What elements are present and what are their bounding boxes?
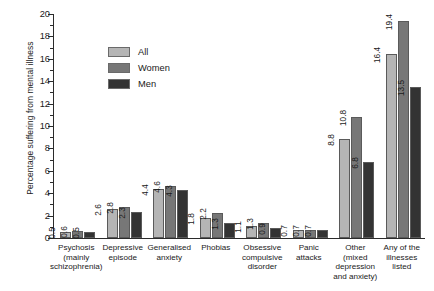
bar-value-label: 1.3 — [220, 217, 229, 228]
legend-swatch-women — [108, 63, 130, 73]
bar-value-text: 1.3 — [211, 219, 220, 230]
bar-group: 4.44.64.3 — [153, 14, 189, 238]
bar-group: 0.50.60.5 — [60, 14, 96, 238]
y-axis-minor-tick-mark — [50, 182, 53, 183]
y-axis-tick-label: 2 — [45, 211, 50, 221]
bar-value-text: 1.1 — [234, 221, 243, 232]
bar[interactable]: 0.5 — [84, 232, 95, 238]
y-axis-minor-tick-mark — [50, 137, 53, 138]
bar-value-label: 0.9 — [267, 221, 276, 232]
y-axis-minor-tick-mark — [50, 48, 53, 49]
bar-value-label: 4.3 — [174, 183, 183, 194]
legend-swatch-men — [108, 79, 130, 89]
y-axis-minor-tick-mark — [50, 160, 53, 161]
bar[interactable]: 10.8 — [351, 117, 362, 238]
y-axis-tick-label: 14 — [40, 76, 50, 86]
bar[interactable]: 6.8 — [363, 162, 374, 238]
x-axis-category-label-line: disorder — [233, 262, 292, 272]
bar-value-text: 0.6 — [60, 227, 69, 238]
bar[interactable]: 0.7 — [317, 230, 328, 238]
bar-group: 0.70.70.7 — [293, 14, 329, 238]
legend-label-all: All — [138, 47, 148, 57]
y-axis-minor-tick-mark — [50, 204, 53, 205]
y-axis-minor-tick-mark — [50, 25, 53, 26]
bar[interactable]: 8.8 — [339, 139, 350, 238]
bar[interactable]: 4.4 — [153, 189, 164, 238]
bar-chart: Percentage suffering from mental illness… — [0, 0, 434, 291]
bar-value-text: 1.3 — [246, 219, 255, 230]
bar-value-text: 2.6 — [94, 204, 103, 215]
x-axis-category-label: Any of theillnesseslisted — [373, 243, 432, 272]
bar-value-label: 2.2 — [208, 207, 217, 218]
bar-value-text: 1.8 — [187, 213, 196, 224]
y-axis-line — [53, 14, 54, 238]
y-axis-tick-label: 20 — [40, 9, 50, 19]
bar-value-label: 13.5 — [406, 78, 415, 94]
x-axis-category-label-line: listed — [373, 262, 432, 272]
bar-value-label: 6.8 — [360, 155, 369, 166]
y-axis-tick-label: 10 — [40, 121, 50, 131]
bar-value-text: 13.5 — [397, 80, 406, 96]
bar-value-text: 0.9 — [258, 223, 267, 234]
bar-group: 1.11.30.9 — [246, 14, 282, 238]
bar-value-text: 4.6 — [153, 182, 162, 193]
x-axis-category-label-line: Any of the — [373, 243, 432, 253]
bar[interactable]: 1.8 — [200, 218, 211, 238]
bar[interactable]: 13.5 — [410, 87, 421, 238]
y-axis-tick-label: 12 — [40, 99, 50, 109]
bar-value-text: 4.3 — [165, 185, 174, 196]
bar-value-label: 16.4 — [382, 45, 391, 61]
x-axis-category-label-line: schizophrenia) — [47, 262, 106, 272]
bar-value-label: 0.7 — [313, 223, 322, 234]
bar-value-text: 2.2 — [199, 209, 208, 220]
x-axis-category-label-line: illnesses — [373, 253, 432, 263]
bar-value-text: 16.4 — [373, 47, 382, 63]
y-axis-tick-label: 8 — [45, 143, 50, 153]
bar[interactable]: 19.4 — [398, 21, 409, 238]
legend-swatch-all — [108, 47, 130, 57]
x-axis-line — [53, 238, 425, 239]
bar-value-text: 19.4 — [385, 14, 394, 30]
y-axis-tick-label: 16 — [40, 54, 50, 64]
bar-value-label: 19.4 — [394, 12, 403, 28]
y-axis-tick-label: 6 — [45, 166, 50, 176]
bar-value-text: 4.4 — [141, 184, 150, 195]
bar-value-text: 2.3 — [118, 208, 127, 219]
legend-label-men: Men — [138, 79, 156, 89]
bar-value-text: 0.7 — [292, 225, 301, 236]
bar-value-text: 0.5 — [48, 228, 57, 239]
bar-value-label: 10.8 — [348, 108, 357, 124]
y-axis-tick-label: 18 — [40, 31, 50, 41]
bar-group: 1.82.21.3 — [200, 14, 236, 238]
bar-value-text: 6.8 — [351, 157, 360, 168]
bar[interactable]: 16.4 — [386, 54, 397, 238]
bar-group: 8.810.86.8 — [339, 14, 375, 238]
bar[interactable]: 2.3 — [131, 212, 142, 238]
x-axis-category-label-line: and anxiety) — [326, 272, 385, 282]
y-axis-minor-tick-mark — [50, 92, 53, 93]
bar-value-text: 0.7 — [304, 225, 313, 236]
bar-value-text: 2.8 — [106, 202, 115, 213]
bar-value-text: 0.7 — [280, 225, 289, 236]
bar-group: 16.419.413.5 — [386, 14, 422, 238]
bar-value-label: 2.3 — [127, 206, 136, 217]
y-axis-title: Percentage suffering from mental illness — [25, 33, 35, 203]
bar-value-text: 8.8 — [327, 135, 336, 146]
y-axis-minor-tick-mark — [50, 115, 53, 116]
y-axis-minor-tick-mark — [50, 70, 53, 71]
legend-label-women: Women — [138, 63, 170, 73]
y-axis-tick-label: 4 — [45, 188, 50, 198]
bar-value-label: 0.5 — [81, 226, 90, 237]
bar-value-label: 8.8 — [336, 133, 345, 144]
x-axis-category-label-line: anxiety — [140, 253, 199, 263]
bar-value-text: 0.5 — [72, 228, 81, 239]
bar-value-text: 10.8 — [339, 110, 348, 126]
